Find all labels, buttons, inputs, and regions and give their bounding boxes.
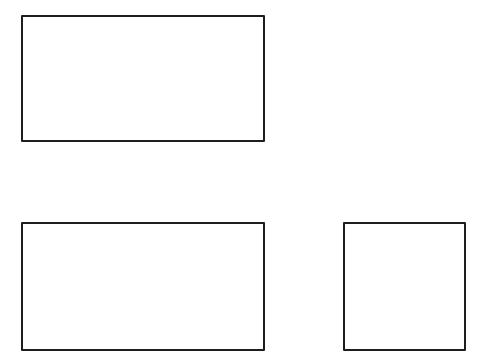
- rect-bottom-left: [21, 222, 265, 351]
- square-bottom-right: [343, 222, 466, 351]
- rect-top-left: [21, 15, 265, 142]
- diagram-canvas: [0, 0, 479, 359]
